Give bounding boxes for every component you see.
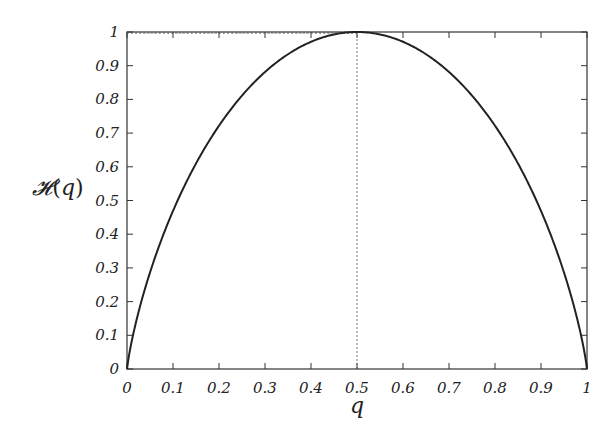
y-tick-label: 0.7 <box>95 124 119 142</box>
y-tick-label: 0.5 <box>95 192 119 210</box>
y-tick-label: 0 <box>109 360 119 378</box>
guide-lines <box>127 32 357 369</box>
x-axis-label: q <box>350 393 364 418</box>
y-tick-label: 0.4 <box>95 225 119 243</box>
y-tick-label: 0.6 <box>95 158 119 176</box>
y-tick-label: 1 <box>109 23 119 41</box>
y-tick-label: 0.8 <box>95 90 119 108</box>
x-tick-label: 0 <box>122 379 132 397</box>
x-tick-label: 0.9 <box>529 379 553 397</box>
y-tick-label: 0.1 <box>95 326 119 344</box>
x-tick-label: 0.3 <box>253 379 277 397</box>
entropy-chart: 00.10.20.30.40.50.60.70.80.91 00.10.20.3… <box>0 0 613 441</box>
y-axis-label: 𝓗(q) <box>32 175 83 200</box>
y-tick-label: 0.2 <box>95 293 119 311</box>
x-tick-label: 0.6 <box>391 379 415 397</box>
y-axis-ticks: 00.10.20.30.40.50.60.70.80.91 <box>95 23 587 378</box>
x-tick-label: 1 <box>582 379 592 397</box>
x-tick-label: 0.4 <box>299 379 323 397</box>
x-tick-label: 0.8 <box>483 379 507 397</box>
x-tick-label: 0.1 <box>161 379 185 397</box>
y-tick-label: 0.9 <box>95 57 119 75</box>
x-axis-ticks: 00.10.20.30.40.50.60.70.80.91 <box>122 32 592 397</box>
x-tick-label: 0.2 <box>207 379 231 397</box>
y-tick-label: 0.3 <box>95 259 119 277</box>
x-tick-label: 0.7 <box>437 379 461 397</box>
